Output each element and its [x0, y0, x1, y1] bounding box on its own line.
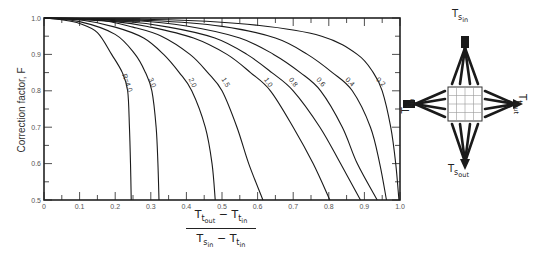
curve-r-1-0	[44, 18, 330, 200]
x-axis-numerator: Ttout − Ttin	[186, 208, 256, 225]
diagram-label-tube-in: Ttin	[400, 98, 416, 113]
curve-r-0-8	[44, 18, 360, 200]
diagram-label-shell-in: Tsin	[452, 8, 468, 24]
fraction-bar	[186, 228, 256, 229]
curve-r-0-4	[44, 18, 386, 200]
y-tick-label: 1.0	[31, 15, 41, 22]
curve-r-3-0	[44, 18, 159, 200]
curve-convergence-band	[115, 18, 140, 22]
y-tick-label: 0.9	[31, 51, 41, 58]
x-tick-label: 0.2	[110, 203, 120, 210]
plot-axes: 00.10.20.30.40.50.60.70.80.91.00.50.60.7…	[31, 15, 405, 211]
x-tick-label: 0	[42, 203, 46, 210]
curve-label: 1.5	[220, 76, 231, 88]
curve-label: R=4.0	[121, 73, 134, 93]
x-tick-label: 0.1	[75, 203, 85, 210]
x-axis-denominator: Tsin − Ttin	[186, 232, 256, 249]
x-tick-label: 0.7	[288, 203, 298, 210]
y-tick-label: 0.7	[31, 124, 41, 131]
curve-r-2-0	[44, 18, 215, 200]
curve-label: 0.2	[375, 76, 387, 88]
shell-inlet-stub	[461, 36, 469, 48]
y-axis-label: Correction factor, F	[16, 67, 27, 152]
y-tick-label: 0.5	[31, 197, 41, 204]
y-tick-label: 0.8	[31, 87, 41, 94]
curve-label: 1.0	[263, 76, 274, 88]
diagram-label-tube-out: Ttout	[512, 94, 528, 114]
diagram-label-shell-out: Tsout	[448, 163, 469, 179]
crossflow-diagram	[403, 36, 523, 170]
x-tick-label: 0.8	[324, 203, 334, 210]
x-tick-label: 0.3	[146, 203, 156, 210]
x-axis-label: Ttout − Ttin Tsin − Ttin	[186, 208, 256, 249]
curve-label: 3.0	[147, 77, 157, 89]
y-tick-label: 0.6	[31, 160, 41, 167]
curve-label: 0.4	[344, 76, 356, 88]
chart-canvas: 00.10.20.30.40.50.60.70.80.91.00.50.60.7…	[0, 0, 542, 263]
correction-factor-curves	[44, 18, 399, 200]
x-tick-label: 1.0	[395, 203, 405, 210]
curve-r-4-0	[44, 18, 131, 200]
plot-frame	[44, 18, 400, 200]
x-tick-label: 0.9	[360, 203, 370, 210]
